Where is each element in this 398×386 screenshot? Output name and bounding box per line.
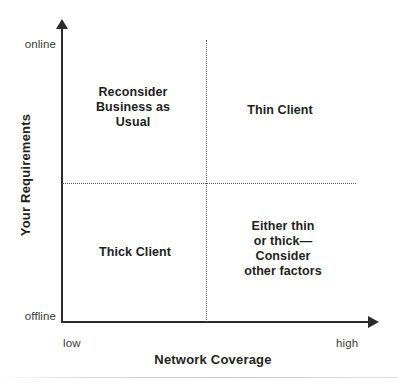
quadrant-label-bottom-left: Thick Client [75, 245, 195, 260]
x-axis-tick-low: low [63, 337, 81, 349]
y-axis-line [61, 26, 63, 323]
x-axis-tick-high: high [336, 337, 358, 349]
x-axis-line [61, 321, 371, 323]
y-axis-tick-offline: offline [25, 310, 56, 322]
quadrant-label-top-right: Thin Client [220, 103, 340, 118]
x-axis-arrow-icon [368, 316, 379, 328]
quadrant-label-bottom-right: Either thinor thick—Considerother factor… [223, 219, 343, 279]
y-axis-tick-online: online [25, 38, 56, 50]
vertical-divider-line [206, 40, 207, 322]
y-axis-arrow-icon [56, 19, 68, 29]
quadrant-chart: online offline low high Your Requirement… [0, 0, 398, 386]
x-axis-title: Network Coverage [113, 352, 313, 367]
page-edge-artifact [0, 377, 398, 378]
horizontal-divider-line [62, 183, 356, 184]
y-axis-title: Your Requirements [18, 75, 36, 275]
quadrant-label-top-left: ReconsiderBusiness asUsual [73, 85, 193, 130]
